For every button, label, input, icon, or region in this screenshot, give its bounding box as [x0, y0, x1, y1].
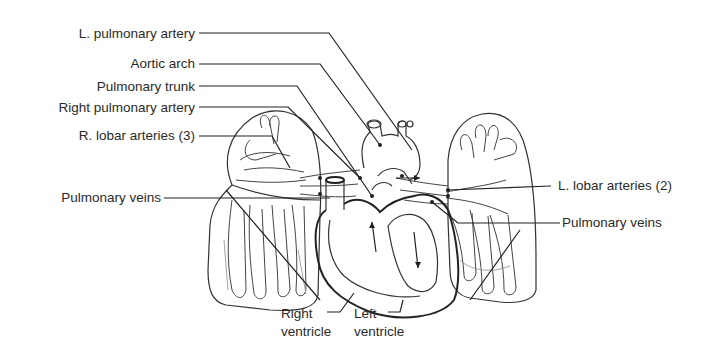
label-pulmonary-trunk: Pulmonary trunk [97, 80, 195, 94]
label-pulmonary-veins-right: Pulmonary veins [562, 216, 662, 230]
left-ventricle-line2: ventricle [354, 323, 404, 341]
label-right-ventricle: Right ventricle [281, 305, 331, 341]
right-lung-illustration [208, 111, 321, 311]
label-r-lobar-arteries: R. lobar arteries (3) [79, 129, 195, 143]
label-aortic-arch: Aortic arch [130, 57, 195, 71]
label-pulmonary-veins-left: Pulmonary veins [61, 191, 161, 205]
pulmonary-circulation-diagram: L. pulmonary artery Aortic arch Pulmonar… [0, 0, 728, 359]
left-ventricle-line1: Left [354, 305, 404, 323]
heart-illustration [316, 120, 459, 317]
right-ventricle-line2: ventricle [281, 323, 331, 341]
leader-lines [164, 33, 560, 312]
left-lung-illustration [446, 113, 536, 302]
label-right-pulmonary-artery: Right pulmonary artery [58, 101, 195, 115]
label-l-lobar-arteries: L. lobar arteries (2) [558, 179, 672, 193]
label-left-ventricle: Left ventricle [354, 305, 404, 341]
right-ventricle-line1: Right [281, 305, 331, 323]
label-l-pulmonary-artery: L. pulmonary artery [79, 27, 195, 41]
